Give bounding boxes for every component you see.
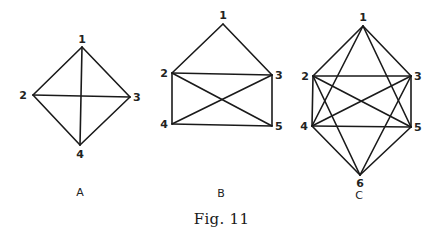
- edge-1-2: [313, 26, 363, 76]
- node-label-3: 3: [275, 69, 283, 82]
- node-label-5: 5: [275, 120, 283, 133]
- edge-4-5: [312, 126, 411, 127]
- node-label-3: 3: [133, 91, 141, 104]
- edge-2-3: [172, 73, 272, 75]
- node-label-4: 4: [160, 118, 168, 131]
- node-label-3: 3: [414, 70, 422, 83]
- graph-c: 123456C: [300, 11, 421, 202]
- node-label-4: 4: [76, 148, 84, 161]
- graph-a: 1234A: [19, 33, 140, 199]
- edge-3-4: [80, 97, 130, 145]
- figure-canvas: 1234A 12345B 123456C: [0, 0, 443, 236]
- edge-4-6: [312, 126, 360, 175]
- edge-5-6: [360, 127, 411, 175]
- edge-3-6: [360, 76, 411, 175]
- edge-1-3: [82, 47, 130, 97]
- graph-label-a: A: [76, 186, 84, 199]
- edge-1-2: [172, 24, 223, 73]
- node-label-5: 5: [414, 121, 422, 134]
- edge-1-3: [363, 26, 411, 76]
- graph-label-c: C: [355, 189, 363, 202]
- node-label-2: 2: [160, 67, 168, 80]
- figure-caption: Fig. 11: [0, 210, 443, 228]
- node-label-1: 1: [219, 9, 227, 22]
- node-label-1: 1: [359, 11, 367, 24]
- node-label-2: 2: [301, 70, 309, 83]
- edge-2-4: [33, 95, 80, 145]
- edge-2-3: [33, 95, 130, 97]
- edge-1-2: [33, 47, 82, 95]
- node-label-1: 1: [78, 33, 86, 46]
- node-label-4: 4: [300, 120, 308, 133]
- edge-1-3: [223, 24, 272, 75]
- edge-3-4: [172, 75, 272, 124]
- edge-2-4: [312, 76, 313, 126]
- graph-label-b: B: [217, 187, 225, 200]
- edge-4-5: [172, 124, 272, 126]
- graph-b: 12345B: [160, 9, 282, 200]
- node-label-2: 2: [19, 89, 27, 102]
